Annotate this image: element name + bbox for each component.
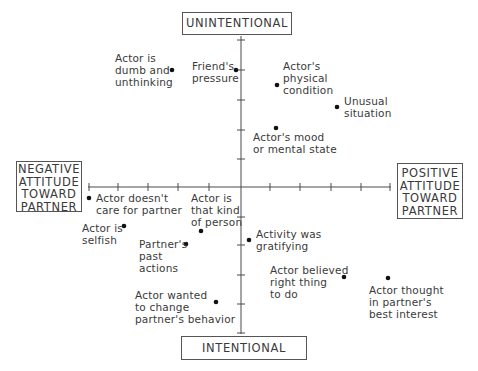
label-line: actions: [139, 262, 187, 274]
label-line: Unusual: [344, 95, 392, 107]
positive-label-line-4: PARTNER: [398, 205, 462, 218]
label-past-actions: Partner's past actions: [139, 238, 187, 274]
label-line: unthinking: [115, 76, 173, 88]
label-change-behavior: Actor wanted to change partner's behavio…: [135, 289, 235, 325]
label-line: Actor is: [82, 222, 123, 234]
label-line: best interest: [369, 308, 444, 320]
label-line: situation: [344, 107, 392, 119]
label-line: Actor's: [283, 60, 333, 72]
label-physical: Actor's physical condition: [283, 60, 333, 96]
label-line: pressure: [192, 72, 239, 84]
label-line: physical: [283, 72, 333, 84]
label-line: Actor is: [115, 52, 173, 64]
negative-label-line-3: TOWARD: [17, 188, 81, 201]
label-selfish: Actor is selfish: [82, 222, 123, 246]
dot-unusual: [335, 105, 340, 110]
label-unusual: Unusual situation: [344, 95, 392, 119]
unintentional-label-box: UNINTENTIONAL: [182, 12, 292, 35]
label-line: Actor's mood: [253, 131, 337, 143]
dot-best-interest: [386, 276, 391, 281]
negative-label-line-4: PARTNER: [17, 201, 81, 214]
label-line: partner's behavior: [135, 313, 235, 325]
label-line: to do: [270, 288, 349, 300]
label-line: in partner's: [369, 296, 444, 308]
label-line: Actor thought: [369, 284, 444, 296]
label-dumb: Actor is dumb and unthinking: [115, 52, 173, 88]
dot-doesnt-care: [87, 196, 92, 201]
dot-gratifying: [247, 238, 252, 243]
dot-kind-of-person: [199, 229, 204, 234]
label-line: dumb and: [115, 64, 173, 76]
label-line: Actor believed: [270, 264, 349, 276]
label-line: Partner's: [139, 238, 187, 250]
positive-label-line-3: TOWARD: [398, 192, 462, 205]
label-line: care for partner: [96, 204, 182, 216]
unintentional-label: UNINTENTIONAL: [183, 13, 291, 34]
positive-label-line-1: POSITIVE: [398, 167, 462, 180]
label-mood: Actor's mood or mental state: [253, 131, 337, 155]
label-gratifying: Activity was gratifying: [256, 228, 322, 252]
label-line: gratifying: [256, 240, 322, 252]
label-line: condition: [283, 84, 333, 96]
label-line: selfish: [82, 234, 123, 246]
label-line: that kind: [191, 204, 242, 216]
intentional-label-box: INTENTIONAL: [181, 336, 307, 360]
intentional-label: INTENTIONAL: [182, 337, 306, 359]
dot-physical: [275, 83, 280, 88]
negative-attitude-box: NEGATIVE ATTITUDE TOWARD PARTNER: [16, 161, 82, 212]
label-line: Actor doesn't: [96, 192, 182, 204]
label-doesnt-care: Actor doesn't care for partner: [96, 192, 182, 216]
label-line: Actor wanted: [135, 289, 235, 301]
label-line: to change: [135, 301, 235, 313]
label-best-interest: Actor thought in partner's best interest: [369, 284, 444, 320]
label-friend: Friend's pressure: [192, 60, 239, 84]
label-line: Activity was: [256, 228, 322, 240]
dot-mood: [274, 126, 279, 131]
label-line: right thing: [270, 276, 349, 288]
label-line: or mental state: [253, 143, 337, 155]
label-line: of person: [191, 216, 242, 228]
label-line: Actor is: [191, 192, 242, 204]
label-right-thing: Actor believed right thing to do: [270, 264, 349, 300]
negative-label-line-1: NEGATIVE: [17, 163, 81, 176]
label-line: past: [139, 250, 187, 262]
label-line: Friend's: [192, 60, 239, 72]
label-kind-of-person: Actor is that kind of person: [191, 192, 242, 228]
positive-attitude-box: POSITIVE ATTITUDE TOWARD PARTNER: [397, 163, 463, 219]
